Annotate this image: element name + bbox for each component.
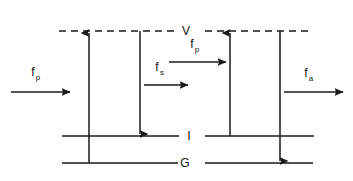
- flux-label-pump-input-subscript: p: [36, 73, 41, 82]
- flux-arrow-pump-input: f p: [11, 65, 70, 92]
- flux-label-pump-second: f: [190, 37, 194, 51]
- level-ground: G: [62, 156, 313, 170]
- flux-label-pump-input: f: [31, 65, 35, 79]
- energy-level-diagram: V I G f p f s: [0, 0, 353, 181]
- level-label-ground: G: [180, 156, 189, 170]
- level-virtual: V: [59, 24, 313, 38]
- flux-label-stokes-signal-subscript: s: [160, 68, 164, 77]
- flux-label-anti-stokes-output: f: [304, 66, 308, 80]
- diagram-canvas: V I G f p f s: [0, 0, 353, 181]
- level-label-virtual: V: [182, 24, 190, 38]
- flux-arrow-anti-stokes-output: f a: [284, 66, 343, 92]
- flux-arrow-stokes-signal: f s: [144, 60, 188, 85]
- flux-label-anti-stokes-output-subscript: a: [309, 74, 314, 83]
- flux-label-stokes-signal: f: [155, 60, 159, 74]
- flux-label-pump-second-subscript: p: [195, 45, 200, 54]
- flux-arrow-pump-second: f p: [169, 37, 226, 62]
- level-intermediate: I: [62, 129, 314, 143]
- level-label-intermediate: I: [187, 129, 190, 143]
